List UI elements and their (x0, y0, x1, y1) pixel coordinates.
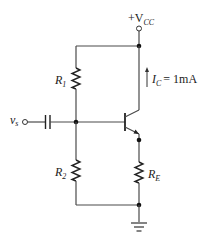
input-label: vs (10, 113, 18, 128)
npn-transistor (125, 46, 139, 134)
r2-label: R2 (54, 165, 66, 181)
vcc-label: +VCC (128, 11, 155, 27)
emitter-node-dot (137, 138, 142, 143)
re-label: RE (147, 167, 160, 183)
ground-icon (131, 223, 147, 231)
input-terminal (23, 120, 28, 125)
collector-current-label: IC= 1mA (151, 72, 197, 88)
circuit-diagram: +VCC R1 R2 RE vs IC= 1mA (0, 0, 201, 240)
r2-resistor (72, 160, 80, 181)
coupling-capacitor (46, 115, 51, 129)
r1-label: R1 (54, 73, 66, 89)
vcc-terminal (137, 26, 142, 31)
r1-resistor (72, 68, 80, 89)
re-resistor (135, 162, 143, 183)
collector-current-arrow-icon (145, 67, 149, 87)
